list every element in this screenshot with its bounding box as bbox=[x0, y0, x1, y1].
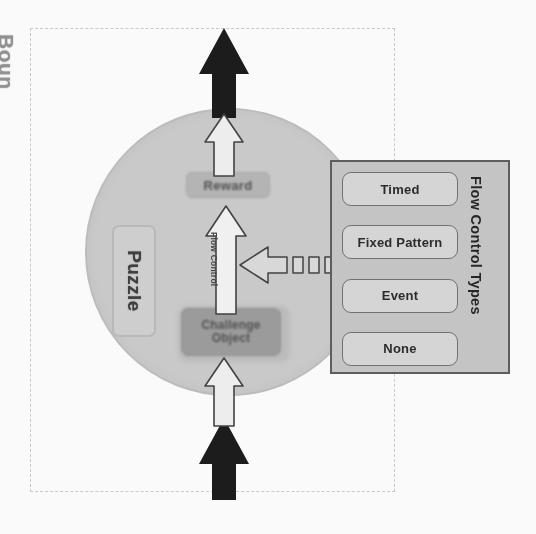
challenge-object-box: Challenge Object bbox=[181, 308, 281, 356]
flow-control-type-fixed-pattern[interactable]: Fixed Pattern bbox=[342, 225, 458, 259]
diagram-canvas: Boun Puzzle Reward Challenge Object bbox=[0, 0, 536, 534]
flow-control-type-timed[interactable]: Timed bbox=[342, 172, 458, 206]
flow-control-types-panel: Timed Fixed Pattern Event None Flow Cont… bbox=[330, 160, 510, 374]
boundary-label: Boun bbox=[0, 34, 18, 154]
flow-control-type-event[interactable]: Event bbox=[342, 279, 458, 313]
flow-control-types-title: Flow Control Types bbox=[468, 176, 484, 362]
challenge-object-label-line1: Challenge bbox=[201, 319, 260, 332]
puzzle-label: Puzzle bbox=[123, 250, 145, 312]
puzzle-box: Puzzle bbox=[112, 225, 156, 337]
flow-control-type-none[interactable]: None bbox=[342, 332, 458, 366]
reward-label: Reward bbox=[204, 178, 253, 193]
reward-box: Reward bbox=[186, 172, 270, 198]
flow-control-arrow-label: Flow Control bbox=[209, 232, 219, 286]
flow-control-types-list: Timed Fixed Pattern Event None bbox=[342, 172, 458, 366]
challenge-object-label-line2: Object bbox=[212, 332, 251, 345]
